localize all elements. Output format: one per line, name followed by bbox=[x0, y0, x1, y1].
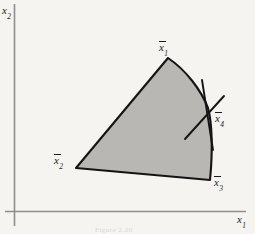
x2bar-subscript: 2 bbox=[59, 162, 63, 171]
figure-container: x2 x1 x1 x2 x3 x4 Figure 2.20 bbox=[0, 0, 255, 234]
x3bar-subscript: 3 bbox=[219, 184, 223, 193]
figure-caption: Figure 2.20 bbox=[95, 226, 133, 234]
vertex-label-x1bar: x1 bbox=[159, 41, 168, 56]
overbar-x2bar bbox=[54, 154, 61, 155]
x-axis-label: x1 bbox=[237, 214, 246, 228]
feasible-region bbox=[76, 58, 212, 180]
y-axis-label: x2 bbox=[2, 5, 11, 19]
overbar-x3bar bbox=[214, 176, 221, 177]
y-axis-label-subscript: 2 bbox=[7, 12, 11, 21]
overbar-x1bar bbox=[159, 41, 166, 42]
x-axis-label-subscript: 1 bbox=[242, 221, 246, 230]
x4bar-subscript: 4 bbox=[220, 120, 224, 129]
overbar-x4bar bbox=[215, 112, 222, 113]
x1bar-subscript: 1 bbox=[164, 49, 168, 58]
vertex-label-x4bar: x4 bbox=[215, 112, 224, 127]
vertex-label-x3bar: x3 bbox=[214, 176, 223, 191]
vertex-label-x2bar: x2 bbox=[54, 154, 63, 169]
